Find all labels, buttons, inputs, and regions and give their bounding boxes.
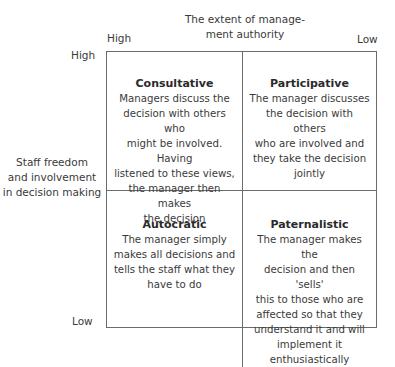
x-axis-title-line-2: ment authority	[150, 27, 340, 42]
x-axis-low-label: Low	[357, 33, 378, 46]
quadrant-description: The manager simply makes all decisions a…	[113, 232, 236, 292]
quadrant-paternalistic: Paternalistic The manager makes the deci…	[243, 191, 376, 367]
quadrant-consultative: Consultative Managers discuss the decisi…	[107, 52, 243, 191]
y-axis-title-line-3: in decision making	[2, 185, 102, 200]
quadrant-participative: Participative The manager discusses the …	[243, 52, 376, 191]
y-axis-title-line-1: Staff freedom	[2, 155, 102, 170]
description-line: The manager discusses	[249, 91, 370, 106]
quadrant-title: Participative	[249, 76, 370, 91]
description-line: makes all decisions and	[113, 247, 236, 262]
description-line: Managers discuss the	[113, 91, 236, 106]
quadrant-description: The manager discusses the decision with …	[249, 91, 370, 181]
x-axis-title: The extent of manage- ment authority	[150, 12, 340, 42]
description-line: understand it and will	[249, 322, 370, 337]
description-line: this to those who are	[249, 292, 370, 307]
description-line: tells the staff what they	[113, 262, 236, 277]
management-style-matrix: Consultative Managers discuss the decisi…	[106, 51, 377, 328]
description-line: The manager makes the	[249, 232, 370, 262]
description-line: affected so that they	[249, 307, 370, 322]
description-line: decision and then 'sells'	[249, 262, 370, 292]
description-line: implement it enthusiastically	[249, 337, 370, 367]
y-axis-title-line-2: and involvement	[2, 170, 102, 185]
description-line: might be involved. Having	[113, 136, 236, 166]
description-line: jointly	[249, 166, 370, 181]
description-line: The manager simply	[113, 232, 236, 247]
quadrant-title: Paternalistic	[249, 217, 370, 232]
y-axis-high-label: High	[71, 49, 95, 62]
quadrant-title: Consultative	[113, 76, 236, 91]
quadrant-description: The manager makes the decision and then …	[249, 232, 370, 367]
x-axis-high-label: High	[107, 32, 131, 45]
x-axis-title-line-1: The extent of manage-	[150, 12, 340, 27]
quadrant-autocratic: Autocratic The manager simply makes all …	[107, 191, 243, 367]
description-line: the decision with others	[249, 106, 370, 136]
description-line: who are involved and	[249, 136, 370, 151]
y-axis-low-label: Low	[72, 315, 93, 328]
y-axis-title: Staff freedom and involvement in decisio…	[2, 155, 102, 200]
description-line: decision with others who	[113, 106, 236, 136]
description-line: listened to these views,	[113, 166, 236, 181]
quadrant-title: Autocratic	[113, 217, 236, 232]
description-line: they take the decision	[249, 151, 370, 166]
description-line: have to do	[113, 277, 236, 292]
